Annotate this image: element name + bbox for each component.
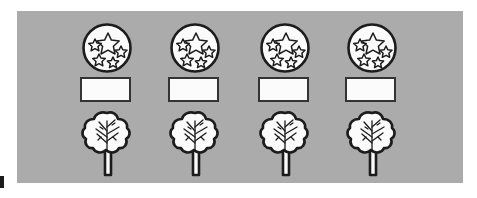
circle-with-stars — [81, 22, 133, 74]
item-grid — [17, 11, 463, 183]
circle-with-stars — [346, 22, 398, 74]
blank-answer-box[interactable] — [258, 77, 309, 102]
page-edge-mark — [0, 176, 4, 188]
tree-illustration — [165, 107, 225, 179]
grid-column — [235, 11, 335, 183]
blank-answer-box[interactable] — [80, 77, 131, 102]
grid-column — [57, 11, 157, 183]
tree-illustration — [77, 107, 137, 179]
grid-column — [322, 11, 422, 183]
tree-illustration — [255, 107, 315, 179]
worksheet-canvas — [0, 0, 477, 198]
blank-answer-box[interactable] — [345, 77, 396, 102]
grid-column — [145, 11, 245, 183]
blank-answer-box[interactable] — [168, 77, 219, 102]
circle-with-stars — [169, 22, 221, 74]
worksheet-panel — [17, 11, 463, 183]
tree-illustration — [342, 107, 402, 179]
circle-with-stars — [259, 22, 311, 74]
